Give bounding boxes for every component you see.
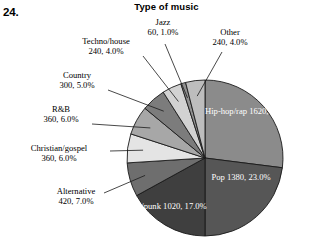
callout-value-country: 300, 5.0%	[44, 80, 110, 90]
callout-label-techno-house: Techno/house 240, 4.0%	[66, 36, 146, 57]
callout-value-rnb: 360, 6.0%	[28, 114, 94, 124]
inner-name-rock-punk: Rock/punk	[123, 201, 161, 211]
callout-name-country: Country	[44, 70, 110, 80]
inner-label-rock-punk: Rock/punk 1020, 17.0%	[120, 201, 210, 211]
callout-label-alternative: Alternative 420, 7.0%	[40, 186, 112, 207]
inner-value-pop: 1380, 23.0%	[227, 172, 271, 182]
callout-name-alternative: Alternative	[40, 186, 112, 196]
pie-slice-hip-hop-rap	[205, 80, 283, 168]
callout-name-christian-gospel: Christian/gospel	[11, 143, 107, 153]
inner-name-hip-hop-rap: Hip-hop/rap	[205, 106, 247, 116]
callout-label-rnb: R&B 360, 6.0%	[28, 104, 94, 125]
callout-name-other: Other	[197, 27, 263, 37]
callout-value-alternative: 420, 7.0%	[40, 196, 112, 206]
inner-name-pop: Pop	[211, 172, 224, 182]
callout-name-jazz: Jazz	[133, 17, 193, 27]
callout-label-country: Country 300, 5.0%	[44, 70, 110, 91]
callout-value-christian-gospel: 360, 6.0%	[11, 153, 107, 163]
callout-value-other: 240, 4.0%	[197, 37, 263, 47]
callout-value-techno-house: 240, 4.0%	[66, 46, 146, 56]
inner-label-pop: Pop 1380, 23.0%	[198, 172, 284, 182]
callout-label-jazz: Jazz 60, 1.0%	[133, 17, 193, 38]
callout-name-techno-house: Techno/house	[66, 36, 146, 46]
callout-label-christian-gospel: Christian/gospel 360, 6.0%	[11, 143, 107, 164]
inner-value-rock-punk: 1020, 17.0%	[163, 201, 207, 211]
pie-slice-pop	[205, 158, 282, 236]
pie-slice-group	[127, 80, 283, 236]
callout-name-rnb: R&B	[28, 104, 94, 114]
callout-label-other: Other 240, 4.0%	[197, 27, 263, 48]
pie-chart-figure: 24. Type of music Jazz 60, 1.0% Other 24…	[0, 0, 309, 241]
inner-value-hip-hop-rap: 1620, 27.0%	[249, 106, 293, 116]
inner-label-hip-hop-rap: Hip-hop/rap 1620, 27.0%	[205, 106, 291, 116]
